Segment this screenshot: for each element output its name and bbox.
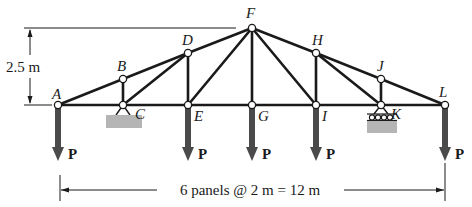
- roller-wheel-icon: [369, 115, 374, 120]
- roller-wheel-icon: [375, 115, 380, 120]
- ground-hatch: [367, 121, 397, 133]
- load-arrow-shaft: [313, 107, 319, 149]
- height-dimension-label: 2.5 m: [6, 59, 41, 75]
- node-label-E: E: [193, 108, 203, 124]
- node-label-L: L: [438, 84, 447, 100]
- load-arrow-A: P: [52, 107, 77, 162]
- load-label-E: P: [198, 146, 207, 162]
- node-label-C: C: [135, 106, 146, 122]
- node-label-B: B: [117, 58, 126, 74]
- joint-C: [119, 101, 126, 108]
- span-dimension-label: 6 panels @ 2 m = 12 m: [180, 182, 321, 198]
- arrow-down-icon: [246, 147, 258, 161]
- joint-B: [119, 75, 126, 82]
- node-label-F: F: [245, 5, 256, 21]
- arrow-down-icon: [310, 147, 322, 161]
- truss-canvas: 2.5 m 6 panels @ 2 m = 12 m PPPPP ABCDEF…: [0, 0, 472, 207]
- joint-K: [377, 101, 384, 108]
- truss-diagram: 2.5 m 6 panels @ 2 m = 12 m PPPPP ABCDEF…: [0, 0, 472, 207]
- joint-I: [312, 101, 319, 108]
- joint-A: [54, 101, 61, 108]
- joint-D: [184, 49, 191, 56]
- arrowhead-left-icon: [61, 188, 69, 193]
- arrow-down-icon: [52, 147, 64, 161]
- arrowhead-down-icon: [28, 96, 33, 104]
- load-label-I: P: [326, 146, 335, 162]
- load-arrow-shaft: [55, 107, 61, 149]
- node-label-A: A: [51, 86, 62, 102]
- arrowhead-up-icon: [28, 29, 33, 37]
- node-label-J: J: [377, 58, 385, 74]
- node-label-I: I: [321, 108, 328, 124]
- load-label-G: P: [262, 146, 271, 162]
- load-arrow-L: P: [439, 107, 464, 162]
- arrowhead-right-icon: [436, 188, 444, 193]
- node-label-D: D: [181, 32, 193, 48]
- member-BD: [123, 53, 188, 79]
- load-label-A: P: [68, 146, 77, 162]
- arrow-down-icon: [182, 147, 194, 161]
- joint-J: [377, 75, 384, 82]
- joint-E: [184, 101, 191, 108]
- arrow-down-icon: [439, 147, 451, 161]
- load-arrow-shaft: [442, 107, 448, 149]
- node-label-H: H: [311, 32, 324, 48]
- member-CD: [123, 53, 188, 105]
- joint-G: [248, 101, 255, 108]
- joint-F: [248, 24, 255, 31]
- node-label-K: K: [390, 106, 402, 122]
- member-HK: [316, 53, 381, 105]
- joint-L: [441, 101, 448, 108]
- roller-wheel-icon: [381, 115, 386, 120]
- load-arrow-shaft: [185, 107, 191, 149]
- load-label-L: P: [455, 146, 464, 162]
- member-AB: [58, 79, 123, 105]
- node-label-G: G: [258, 108, 269, 124]
- member-JL: [381, 79, 445, 105]
- load-arrow-shaft: [249, 107, 255, 149]
- member-HJ: [316, 53, 381, 79]
- joint-H: [312, 49, 319, 56]
